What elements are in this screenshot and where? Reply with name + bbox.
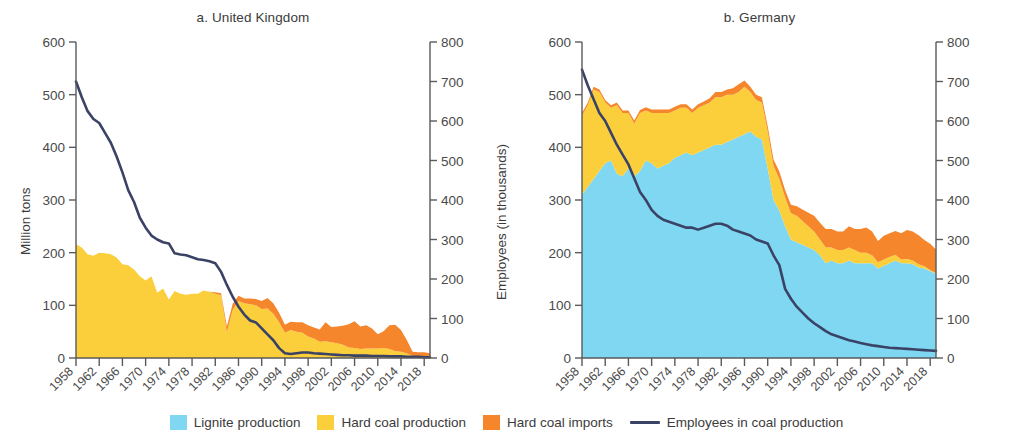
legend-swatch-hard-coal-imports-icon bbox=[483, 415, 500, 430]
svg-text:1982: 1982 bbox=[692, 364, 722, 394]
svg-text:600: 600 bbox=[548, 35, 571, 50]
legend-item-hard-coal-imports: Hard coal imports bbox=[483, 415, 613, 430]
svg-text:1990: 1990 bbox=[232, 364, 262, 394]
svg-text:100: 100 bbox=[548, 298, 571, 313]
svg-text:1978: 1978 bbox=[163, 364, 193, 394]
coal-production-figure: a. United Kingdom Million tons Employees… bbox=[0, 0, 1013, 440]
panel-united-kingdom: a. United Kingdom Million tons Employees… bbox=[0, 0, 506, 405]
svg-text:1970: 1970 bbox=[622, 364, 652, 394]
svg-text:800: 800 bbox=[441, 35, 464, 50]
svg-text:400: 400 bbox=[42, 140, 65, 155]
svg-text:0: 0 bbox=[563, 351, 571, 366]
svg-text:1978: 1978 bbox=[669, 364, 699, 394]
svg-text:1966: 1966 bbox=[599, 364, 629, 394]
svg-text:2018: 2018 bbox=[395, 364, 425, 394]
svg-text:1970: 1970 bbox=[116, 364, 146, 394]
svg-text:200: 200 bbox=[441, 272, 464, 287]
svg-text:1974: 1974 bbox=[139, 364, 169, 394]
svg-text:400: 400 bbox=[548, 140, 571, 155]
svg-text:2002: 2002 bbox=[302, 364, 332, 394]
svg-text:1990: 1990 bbox=[738, 364, 768, 394]
svg-text:300: 300 bbox=[441, 233, 464, 248]
svg-text:1998: 1998 bbox=[785, 364, 815, 394]
svg-text:100: 100 bbox=[947, 312, 970, 327]
svg-text:1982: 1982 bbox=[186, 364, 216, 394]
svg-text:2006: 2006 bbox=[325, 364, 355, 394]
svg-text:1962: 1962 bbox=[576, 364, 606, 394]
svg-text:0: 0 bbox=[947, 351, 955, 366]
plot-area-uk: 0100200300400500600010020030040050060070… bbox=[0, 0, 506, 405]
svg-text:700: 700 bbox=[441, 75, 464, 90]
svg-text:1958: 1958 bbox=[47, 364, 77, 394]
svg-text:300: 300 bbox=[548, 193, 571, 208]
svg-text:1962: 1962 bbox=[70, 364, 100, 394]
svg-text:500: 500 bbox=[947, 154, 970, 169]
svg-text:1958: 1958 bbox=[553, 364, 583, 394]
svg-text:400: 400 bbox=[441, 193, 464, 208]
figure-legend: Lignite production Hard coal production … bbox=[0, 405, 1013, 440]
svg-text:1966: 1966 bbox=[93, 364, 123, 394]
svg-text:600: 600 bbox=[947, 114, 970, 129]
svg-text:2014: 2014 bbox=[878, 364, 908, 394]
svg-text:1994: 1994 bbox=[255, 364, 285, 394]
legend-item-employees: Employees in coal production bbox=[630, 415, 843, 430]
svg-text:2018: 2018 bbox=[901, 364, 931, 394]
svg-text:200: 200 bbox=[548, 246, 571, 261]
svg-text:500: 500 bbox=[42, 88, 65, 103]
svg-text:0: 0 bbox=[57, 351, 65, 366]
legend-swatch-lignite-icon bbox=[170, 415, 187, 430]
chart-panels: a. United Kingdom Million tons Employees… bbox=[0, 0, 1013, 405]
svg-text:2002: 2002 bbox=[808, 364, 838, 394]
svg-text:300: 300 bbox=[947, 233, 970, 248]
svg-text:2006: 2006 bbox=[831, 364, 861, 394]
svg-text:700: 700 bbox=[947, 75, 970, 90]
svg-text:1994: 1994 bbox=[761, 364, 791, 394]
svg-text:100: 100 bbox=[42, 298, 65, 313]
svg-text:600: 600 bbox=[441, 114, 464, 129]
svg-text:800: 800 bbox=[947, 35, 970, 50]
svg-text:100: 100 bbox=[441, 312, 464, 327]
svg-text:1974: 1974 bbox=[645, 364, 675, 394]
svg-text:400: 400 bbox=[947, 193, 970, 208]
legend-swatch-hard-coal-production-icon bbox=[317, 415, 334, 430]
legend-label-lignite: Lignite production bbox=[194, 415, 301, 430]
svg-text:200: 200 bbox=[947, 272, 970, 287]
svg-text:1998: 1998 bbox=[279, 364, 309, 394]
plot-area-germany: 0100200300400500600010020030040050060070… bbox=[506, 0, 1013, 405]
panel-germany: b. Germany Million tons Employees (in th… bbox=[506, 0, 1013, 405]
svg-text:600: 600 bbox=[42, 35, 65, 50]
svg-text:500: 500 bbox=[441, 154, 464, 169]
svg-text:500: 500 bbox=[548, 88, 571, 103]
svg-text:1986: 1986 bbox=[715, 364, 745, 394]
svg-text:1986: 1986 bbox=[209, 364, 239, 394]
svg-text:300: 300 bbox=[42, 193, 65, 208]
legend-label-employees: Employees in coal production bbox=[667, 415, 843, 430]
legend-item-hard-coal-production: Hard coal production bbox=[317, 415, 466, 430]
legend-line-employees-icon bbox=[630, 421, 660, 424]
svg-text:0: 0 bbox=[441, 351, 449, 366]
legend-item-lignite: Lignite production bbox=[170, 415, 301, 430]
svg-text:2010: 2010 bbox=[854, 364, 884, 394]
legend-label-hard-coal-imports: Hard coal imports bbox=[507, 415, 613, 430]
svg-text:200: 200 bbox=[42, 246, 65, 261]
legend-label-hard-coal-production: Hard coal production bbox=[341, 415, 466, 430]
svg-text:2014: 2014 bbox=[372, 364, 402, 394]
svg-text:2010: 2010 bbox=[348, 364, 378, 394]
